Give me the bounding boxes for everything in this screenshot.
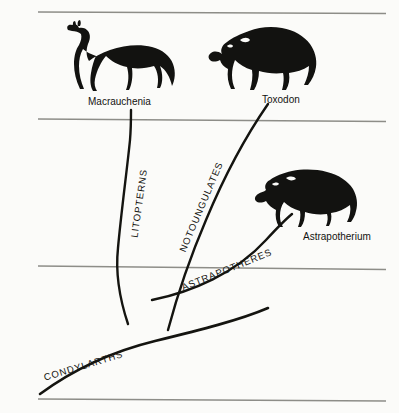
phylogeny-figure: PLEISTOCENE OLIGOCENE – PLIOCENE PALEOCE…: [0, 0, 399, 413]
toxodon-silhouette: [209, 27, 317, 90]
macrauchenia-silhouette: [67, 20, 175, 91]
era-label-oligocene-pliocene: OLIGOCENE – PLIOCENE: [0, 136, 30, 268]
astrapotherium-silhouette: [255, 170, 357, 227]
genus-label-toxodon: Toxodon: [262, 94, 300, 105]
era-label-paleocene-eocene: PALEOCENE – EOCENE: [0, 280, 30, 400]
era-label-pleistocene: PLEISTOCENE: [0, 46, 30, 120]
genus-label-astrapotherium: Astrapotherium: [303, 231, 371, 242]
genus-label-macrauchenia: Macrauchenia: [88, 96, 151, 107]
